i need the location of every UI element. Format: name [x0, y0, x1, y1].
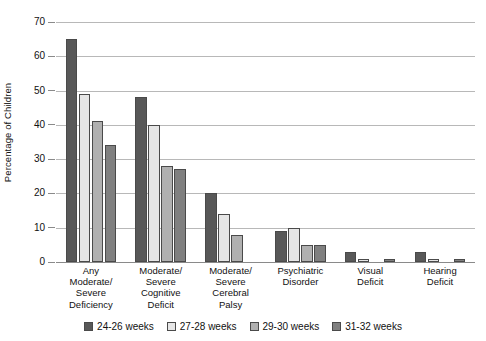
gridline	[56, 262, 475, 263]
y-axis-tick-mark	[48, 262, 55, 263]
y-axis-tick-mark	[48, 90, 55, 91]
y-axis-tick: 60	[0, 50, 56, 62]
bar	[92, 121, 104, 262]
legend-label: 29-30 weeks	[263, 321, 320, 332]
y-axis-tick-mark	[48, 124, 55, 125]
plot-area	[56, 22, 475, 262]
y-axis-tick: 30	[0, 153, 56, 165]
bar	[358, 259, 370, 262]
bar-chart: Percentage of Children 010203040506070 A…	[0, 0, 486, 341]
bar	[174, 169, 186, 262]
bar	[275, 231, 287, 262]
y-axis-tick: 0	[0, 256, 56, 268]
bar-group	[56, 22, 126, 262]
y-axis-tick-mark	[48, 193, 55, 194]
bar	[231, 235, 243, 262]
bar	[135, 97, 147, 262]
legend-swatch-icon	[84, 322, 93, 331]
bar	[205, 193, 217, 262]
bar	[105, 145, 117, 262]
bar-group	[335, 22, 405, 262]
x-axis-category-label-line: Moderate/	[126, 265, 196, 276]
y-axis-tick: 40	[0, 119, 56, 131]
bar	[384, 259, 396, 262]
x-axis-category-label: AnyModerate/SevereDeficiency	[56, 265, 126, 310]
x-axis-category-label: VisualDeficit	[335, 265, 405, 287]
x-axis-category-label-line: Deficit	[405, 276, 475, 287]
legend-swatch-icon	[332, 322, 341, 331]
x-axis-category-label-line: Moderate/	[196, 265, 266, 276]
bar-group	[405, 22, 475, 262]
y-axis-tick-label: 0	[39, 256, 45, 268]
bar	[288, 228, 300, 262]
bar	[415, 252, 427, 262]
legend-swatch-icon	[167, 322, 176, 331]
y-axis-tick-label: 20	[34, 187, 45, 199]
y-axis-tick: 70	[0, 16, 56, 28]
y-axis-tick-mark	[48, 227, 55, 228]
bar	[454, 259, 466, 262]
y-axis-tick-mark	[48, 22, 55, 23]
x-axis-category-label-line: Any	[56, 265, 126, 276]
y-axis-tick-label: 50	[34, 85, 45, 97]
x-axis-category-label-line: Deficit	[126, 299, 196, 310]
legend-label: 31-32 weeks	[345, 321, 402, 332]
x-axis-category-label-line: Cerebral	[196, 287, 266, 298]
x-axis-category-label: Moderate/SevereCerebralPalsy	[196, 265, 266, 310]
y-axis-tick-label: 70	[34, 16, 45, 28]
y-axis-tick: 10	[0, 222, 56, 234]
x-axis-category-label: Moderate/SevereCognitiveDeficit	[126, 265, 196, 310]
legend-item[interactable]: 24-26 weeks	[84, 321, 154, 332]
bar	[345, 252, 357, 262]
legend-label: 27-28 weeks	[180, 321, 237, 332]
x-axis-category-labels: AnyModerate/SevereDeficiencyModerate/Sev…	[56, 265, 475, 313]
x-axis-category-label-line: Visual	[335, 265, 405, 276]
bar	[66, 39, 78, 262]
bar	[161, 166, 173, 262]
x-axis-category-label-line: Deficit	[335, 276, 405, 287]
y-axis-tick-mark	[48, 159, 55, 160]
bar	[314, 245, 326, 262]
y-axis-tick-mark	[48, 56, 55, 57]
y-axis-tick: 20	[0, 187, 56, 199]
bar-group	[196, 22, 266, 262]
bar-group	[126, 22, 196, 262]
x-axis-category-label-line: Psychiatric	[266, 265, 336, 276]
bar	[79, 94, 91, 262]
y-axis-tick-label: 60	[34, 50, 45, 62]
legend-swatch-icon	[250, 322, 259, 331]
x-axis-category-label-line: Palsy	[196, 299, 266, 310]
y-axis-tick-label: 30	[34, 153, 45, 165]
x-axis-category-label-line: Severe	[196, 276, 266, 287]
bar	[218, 214, 230, 262]
x-axis-category-label-line: Disorder	[266, 276, 336, 287]
y-axis-tick: 50	[0, 85, 56, 97]
x-axis-category-label: PsychiatricDisorder	[266, 265, 336, 287]
y-axis-ticks: 010203040506070	[0, 0, 56, 341]
x-axis-category-label-line: Deficiency	[56, 299, 126, 310]
x-axis-category-label-line: Severe	[56, 287, 126, 298]
legend-item[interactable]: 27-28 weeks	[167, 321, 237, 332]
x-axis-category-label-line: Hearing	[405, 265, 475, 276]
y-axis-tick-label: 40	[34, 119, 45, 131]
legend-item[interactable]: 31-32 weeks	[332, 321, 402, 332]
legend-item[interactable]: 29-30 weeks	[250, 321, 320, 332]
chart-legend: 24-26 weeks27-28 weeks29-30 weeks31-32 w…	[0, 318, 486, 334]
bar	[148, 125, 160, 262]
x-axis-category-label-line: Severe	[126, 276, 196, 287]
x-axis-category-label-line: Moderate/	[56, 276, 126, 287]
y-axis-tick-label: 10	[34, 222, 45, 234]
bar	[428, 259, 440, 262]
bar-group	[266, 22, 336, 262]
x-axis-category-label: HearingDeficit	[405, 265, 475, 287]
bar	[301, 245, 313, 262]
legend-label: 24-26 weeks	[97, 321, 154, 332]
x-axis-category-label-line: Cognitive	[126, 287, 196, 298]
